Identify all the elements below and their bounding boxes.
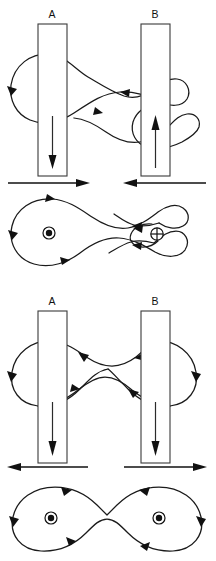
field-arrowhead-left-outer-down <box>7 371 17 382</box>
field-arrowhead-right-outer-down <box>191 371 201 382</box>
force-arrow-right-head <box>123 179 137 187</box>
panel-antiparallel-currents: A B <box>7 8 206 266</box>
conductor-b-bottom: B <box>141 295 170 463</box>
current-out-of-page-symbol-right <box>153 512 165 524</box>
conductor-a-label: A <box>48 8 55 20</box>
cross-field-outer-top-upper <box>52 199 188 228</box>
cross-arrowhead-left-down <box>9 516 19 527</box>
current-into-page-symbol <box>151 228 163 240</box>
conductor-b-top: B <box>141 8 170 176</box>
force-arrow-left-head <box>76 179 90 187</box>
field-line-upper-pinch <box>52 341 156 366</box>
field-arrowhead-left-down <box>7 86 17 96</box>
current-out-of-page-symbol-left <box>45 512 57 524</box>
field-lines-bottom <box>7 341 201 406</box>
force-arrows-top <box>8 179 206 187</box>
cross-arrowhead-inner-down <box>132 242 142 250</box>
conductor-a-top: A <box>38 8 67 176</box>
force-arrow-left-head <box>7 463 21 471</box>
cross-arrowhead-right-down <box>196 516 206 527</box>
force-arrows-bottom <box>7 463 207 471</box>
cross-arrowhead-top-left <box>45 194 55 202</box>
conductor-b-label: B <box>151 295 158 307</box>
field-arrowhead-upper-left <box>78 352 89 362</box>
cross-arrowhead-bottom <box>60 257 70 265</box>
field-arrowhead-mid-right <box>93 107 103 115</box>
cross-section-top <box>8 194 188 266</box>
conductor-a-label: A <box>48 295 55 307</box>
force-arrow-right-head <box>193 463 207 471</box>
panel-parallel-currents: A B <box>7 295 207 551</box>
cross-arrowhead-left-down <box>8 230 18 240</box>
current-out-of-page-symbol <box>43 227 55 239</box>
cross-section-bottom <box>9 487 206 551</box>
cross-field-outer-bottom <box>12 487 202 551</box>
magnetic-field-figure: A B <box>0 0 216 561</box>
conductor-b-label: B <box>151 8 158 20</box>
diagram-canvas: A B <box>0 0 216 561</box>
conductor-a-bottom: A <box>38 295 67 463</box>
